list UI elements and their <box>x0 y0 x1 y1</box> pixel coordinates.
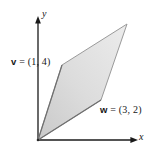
y-axis-label: y <box>42 9 46 19</box>
y-axis <box>35 16 41 140</box>
vector-parallelogram-figure <box>0 0 153 154</box>
vector-w-name: w <box>100 104 108 115</box>
x-axis-label: x <box>139 132 143 142</box>
vector-w-components: = (3, 2) <box>108 104 142 115</box>
vector-v-label: v = (1, 4) <box>11 56 51 67</box>
x-axis-arrowhead <box>130 137 138 143</box>
y-axis-arrowhead <box>35 16 41 24</box>
origin-point <box>37 139 40 142</box>
parallelogram-shape <box>38 24 127 140</box>
vector-v-components: = (1, 4) <box>16 56 50 67</box>
x-axis <box>38 137 138 143</box>
vector-w-label: w = (3, 2) <box>100 104 142 115</box>
